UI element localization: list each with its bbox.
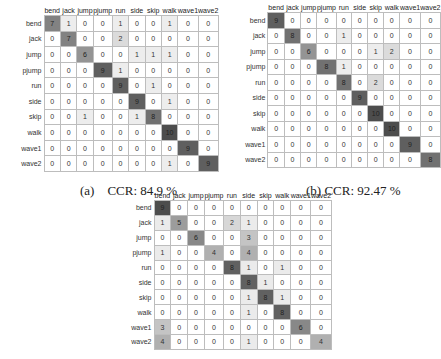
matrix-cell: 0: [336, 121, 352, 137]
matrix-cell: 1: [161, 47, 177, 63]
matrix-cell: 1: [154, 245, 171, 260]
matrix-row: bend9000000000: [231, 13, 441, 29]
matrix-cell: 0: [384, 106, 400, 122]
matrix-cell: 1: [112, 62, 128, 78]
matrix-cell: 0: [420, 106, 440, 122]
matrix-cell: 8: [284, 28, 300, 44]
confusion-matrix-c: bendjackjumppjumprunsideskipwalkwave1wav…: [114, 192, 332, 350]
matrix-cell: 0: [336, 106, 352, 122]
matrix-cell: 0: [317, 106, 336, 122]
matrix-cell: 1: [336, 28, 352, 44]
matrix-cell: 0: [274, 201, 291, 216]
matrix-cell: 0: [311, 260, 331, 275]
matrix-cell: 0: [188, 275, 205, 290]
matrix-cell: 1: [240, 260, 257, 275]
column-label: walk: [161, 7, 177, 16]
row-label: bend: [4, 16, 44, 32]
matrix-cell: 0: [291, 230, 311, 245]
matrix-cell: 0: [268, 75, 285, 91]
matrix-cell: 0: [145, 140, 161, 156]
column-label: bend: [44, 7, 60, 16]
matrix-cell: 0: [161, 62, 177, 78]
row-label: wave1: [114, 320, 154, 335]
matrix-cell: 8: [420, 152, 440, 168]
matrix-cell: 0: [284, 90, 300, 106]
matrix-cell: 0: [284, 44, 300, 60]
column-label: jack: [284, 4, 300, 13]
matrix-cell: 0: [178, 62, 198, 78]
matrix-cell: 6: [291, 320, 311, 335]
column-label: jump: [188, 192, 205, 201]
matrix-cell: 0: [300, 13, 317, 29]
matrix-cell: 0: [44, 78, 60, 94]
matrix-cell: 0: [198, 78, 218, 94]
matrix-cell: 0: [352, 13, 368, 29]
row-label: walk: [231, 121, 268, 137]
matrix-cell: 0: [112, 47, 128, 63]
matrix-cell: 0: [188, 320, 205, 335]
matrix-cell: 0: [300, 90, 317, 106]
matrix-cell: 0: [44, 125, 60, 141]
matrix-cell: 0: [93, 109, 112, 125]
matrix-cell: 0: [93, 125, 112, 141]
matrix-cell: 1: [240, 335, 257, 350]
row-label: side: [114, 275, 154, 290]
matrix-cell: 0: [204, 201, 223, 216]
row-label: skip: [4, 109, 44, 125]
matrix-cell: 0: [317, 90, 336, 106]
matrix-cell: 0: [274, 335, 291, 350]
matrix-cell: 0: [284, 121, 300, 137]
column-label: side: [240, 192, 257, 201]
matrix-cell: 0: [178, 93, 198, 109]
matrix-cell: 0: [257, 335, 274, 350]
matrix-cell: 0: [60, 140, 76, 156]
matrix-cell: 0: [284, 13, 300, 29]
matrix-cell: 7: [60, 31, 76, 47]
matrix-cell: 0: [336, 13, 352, 29]
matrix-cell: 0: [284, 152, 300, 168]
row-label: pjump: [114, 245, 154, 260]
matrix-cell: 0: [352, 121, 368, 137]
row-label: jump: [4, 47, 44, 63]
matrix-cell: 0: [317, 137, 336, 153]
matrix-cell: 0: [178, 156, 198, 172]
matrix-cell: 0: [93, 31, 112, 47]
column-label: skip: [257, 192, 274, 201]
matrix-cell: 0: [336, 152, 352, 168]
matrix-cell: 0: [188, 260, 205, 275]
matrix-cell: 1: [161, 93, 177, 109]
matrix-cell: 1: [145, 78, 161, 94]
column-label: jack: [171, 192, 188, 201]
matrix-cell: 0: [336, 44, 352, 60]
matrix-row: wave20000000008: [231, 152, 441, 168]
matrix-cell: 0: [257, 320, 274, 335]
matrix-cell: 4: [240, 245, 257, 260]
matrix-cell: 8: [145, 109, 161, 125]
matrix-cell: 0: [420, 13, 440, 29]
column-label: run: [223, 192, 240, 201]
matrix-cell: 0: [274, 320, 291, 335]
matrix-cell: 1: [240, 305, 257, 320]
row-label: walk: [114, 305, 154, 320]
matrix-cell: 0: [400, 28, 420, 44]
matrix-cell: 0: [204, 230, 223, 245]
column-label: wave2: [420, 4, 440, 13]
matrix-cell: 0: [77, 31, 93, 47]
caption-a-label: (a): [80, 183, 94, 198]
matrix-cell: 8: [223, 260, 240, 275]
matrix-cell: 0: [284, 137, 300, 153]
corner-cell: [231, 4, 268, 13]
matrix-cell: 0: [336, 137, 352, 153]
matrix-cell: 0: [420, 75, 440, 91]
matrix-cell: 0: [178, 78, 198, 94]
matrix-cell: 6: [77, 47, 93, 63]
row-label: wave2: [231, 152, 268, 168]
matrix-cell: 0: [268, 137, 285, 153]
matrix-cell: 0: [274, 275, 291, 290]
column-label: skip: [145, 7, 161, 16]
matrix-row: walk0000010800: [114, 305, 331, 320]
matrix-cell: 0: [300, 106, 317, 122]
matrix-cell: 0: [257, 305, 274, 320]
matrix-row: wave20000000109: [4, 156, 218, 172]
matrix-row: bend7100100100: [4, 16, 218, 32]
